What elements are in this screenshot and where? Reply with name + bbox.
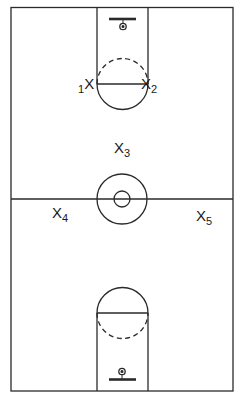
- top-hoop-center: [122, 26, 124, 28]
- bottom-key: [97, 288, 148, 392]
- player-4-x-mark: X: [52, 204, 62, 221]
- player-2-number: 2: [151, 83, 157, 95]
- player-3-x-mark: X: [114, 139, 124, 156]
- player-2-marker: X2: [141, 76, 157, 92]
- player-3-number: 3: [124, 147, 130, 159]
- player-1-x-mark: X: [84, 75, 94, 92]
- player-5-marker: X5: [196, 208, 212, 224]
- player-2-x-mark: X: [141, 75, 151, 92]
- bottom-free-throw-circle-dashed: [97, 313, 148, 339]
- basketball-court: [0, 0, 242, 403]
- player-5-x-mark: X: [196, 207, 206, 224]
- player-4-marker: X4: [52, 205, 68, 221]
- player-5-number: 5: [206, 215, 212, 227]
- player-3-marker: X3: [114, 140, 130, 156]
- player-1-number: 1: [78, 83, 84, 95]
- top-key: [97, 8, 148, 110]
- player-4-number: 4: [62, 212, 68, 224]
- bottom-free-throw-circle-solid: [97, 288, 148, 314]
- player-1-marker: 1X: [78, 76, 94, 92]
- bottom-hoop-center: [121, 371, 123, 373]
